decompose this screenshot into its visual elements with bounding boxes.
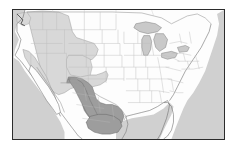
- map-canvas: [13, 10, 224, 139]
- map-frame: [12, 9, 225, 140]
- distribution-map-figure: [0, 0, 237, 151]
